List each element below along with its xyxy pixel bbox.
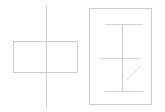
- drawing-canvas: [0, 0, 165, 112]
- line-drawing-svg: [0, 0, 165, 112]
- canvas-background: [0, 0, 165, 112]
